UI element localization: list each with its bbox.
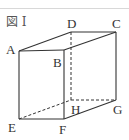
edge-BC: [64, 32, 116, 50]
vertex-label-b: B: [53, 56, 62, 69]
vertex-label-g: G: [113, 103, 122, 116]
edge-AB: [19, 50, 64, 51]
solid-edges: [19, 32, 116, 119]
cuboid-diagram: [0, 0, 129, 140]
vertex-label-a: A: [6, 43, 15, 56]
edge-AD: [19, 32, 71, 51]
vertex-label-f: F: [59, 123, 66, 136]
vertex-label-e: E: [8, 121, 16, 134]
hidden-edges: [19, 32, 116, 119]
edge-EH: [19, 100, 71, 119]
vertex-label-h: H: [71, 103, 80, 116]
vertex-label-c: C: [112, 17, 121, 30]
vertex-label-d: D: [67, 17, 76, 30]
